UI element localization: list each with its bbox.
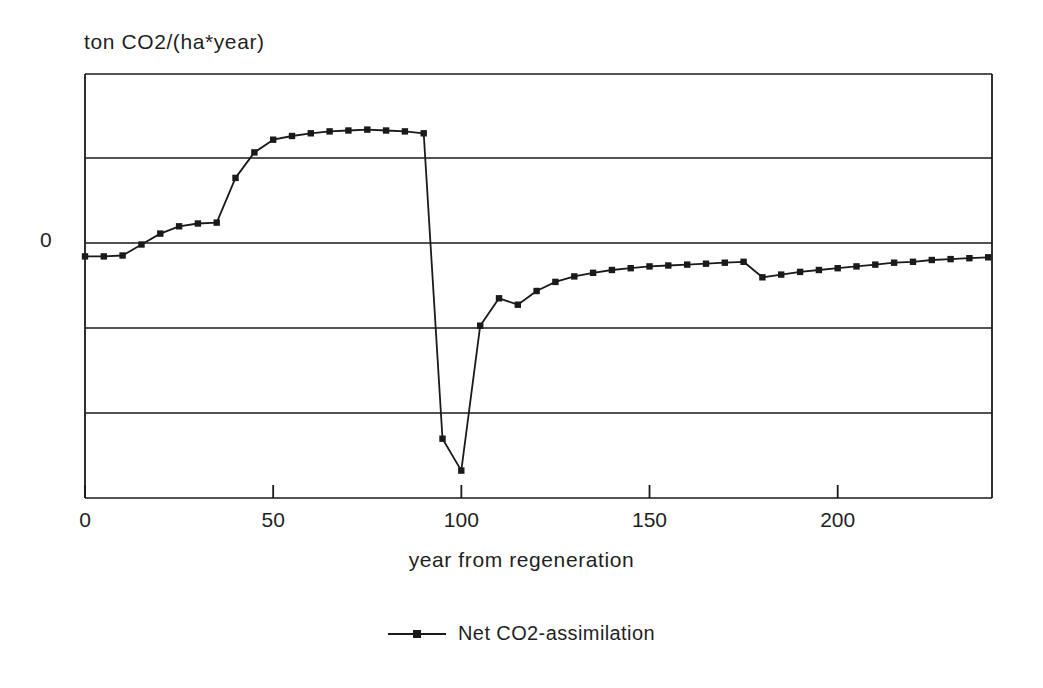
data-point: [552, 279, 558, 285]
data-point: [176, 223, 182, 229]
x-axis-label: year from regeneration: [0, 548, 1043, 572]
data-point: [326, 128, 332, 134]
data-point: [458, 467, 464, 473]
data-point: [778, 271, 784, 277]
legend-square-marker-icon: [413, 630, 421, 638]
legend-label-net-co2-assimilation: Net CO2-assimilation: [458, 622, 655, 645]
x-tick-label-150: 150: [632, 508, 667, 532]
data-point: [947, 256, 953, 262]
data-point: [402, 128, 408, 134]
data-point: [496, 295, 502, 301]
data-point: [609, 267, 615, 273]
data-point: [853, 263, 859, 269]
gridlines: [85, 74, 992, 498]
data-point: [872, 261, 878, 267]
x-tick-label-200: 200: [820, 508, 855, 532]
data-point: [533, 288, 539, 294]
data-point: [421, 130, 427, 136]
data-point: [515, 302, 521, 308]
data-point: [195, 220, 201, 226]
data-point: [308, 130, 314, 136]
data-point: [891, 260, 897, 266]
x-tick-label-0: 0: [79, 508, 91, 532]
data-point: [251, 149, 257, 155]
series-line-net-co2-assimilation: [85, 130, 988, 471]
data-point: [345, 127, 351, 133]
data-point: [910, 259, 916, 265]
chart-legend: Net CO2-assimilation: [0, 622, 1043, 645]
data-point: [101, 253, 107, 259]
data-point: [590, 270, 596, 276]
data-point: [364, 126, 370, 132]
data-point: [571, 273, 577, 279]
data-point: [138, 241, 144, 247]
data-point: [703, 261, 709, 267]
data-point: [383, 127, 389, 133]
data-point: [439, 436, 445, 442]
x-tick-label-50: 50: [261, 508, 284, 532]
data-point: [157, 230, 163, 236]
data-point: [985, 254, 991, 260]
axes-frame: [85, 74, 992, 498]
data-point: [797, 269, 803, 275]
data-point: [816, 267, 822, 273]
data-point: [740, 259, 746, 265]
data-point: [665, 262, 671, 268]
data-point: [82, 253, 88, 259]
data-point: [289, 133, 295, 139]
data-point: [684, 261, 690, 267]
data-point: [966, 255, 972, 261]
data-point: [759, 274, 765, 280]
legend-key-icon: [388, 627, 446, 641]
series-markers-net-co2-assimilation: [82, 126, 992, 473]
data-point: [119, 252, 125, 258]
data-point: [232, 175, 238, 181]
data-point: [646, 263, 652, 269]
x-axis-ticks: [85, 485, 838, 498]
data-point: [929, 257, 935, 263]
data-point: [214, 219, 220, 225]
data-point: [835, 265, 841, 271]
x-tick-label-100: 100: [444, 508, 479, 532]
data-point: [722, 260, 728, 266]
data-point: [628, 265, 634, 271]
data-point: [477, 323, 483, 329]
data-point: [270, 137, 276, 143]
chart-figure: ton CO2/(ha*year) 0 050100150200 year fr…: [0, 0, 1043, 688]
plot-area: [0, 0, 1043, 688]
